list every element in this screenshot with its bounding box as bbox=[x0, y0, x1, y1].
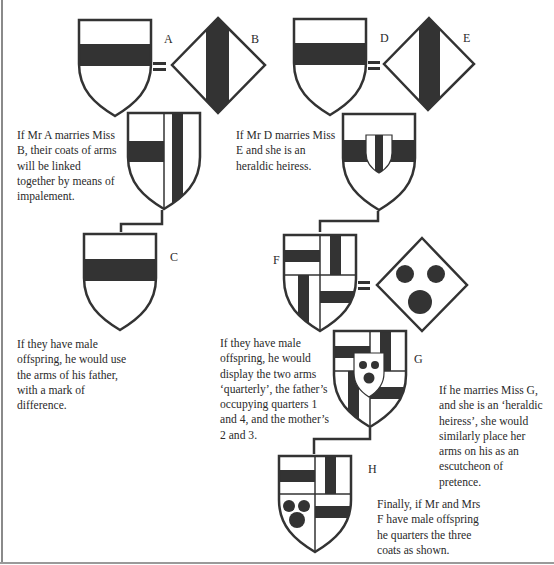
label-a: A bbox=[164, 32, 173, 47]
caption-impalement: If Mr A marries Miss B, their coats of a… bbox=[17, 128, 121, 204]
label-h: H bbox=[368, 462, 377, 477]
shield-impaled-ab bbox=[128, 113, 200, 209]
fess-band bbox=[79, 44, 151, 66]
roundel bbox=[408, 290, 432, 314]
shield-pretence-de bbox=[343, 114, 415, 210]
caption-pretence: If he marries Miss G, and she is an ‘her… bbox=[439, 383, 547, 490]
pale-band bbox=[206, 15, 229, 115]
equals-sign-fg bbox=[358, 281, 370, 290]
caption-quarterly: If they have male offspring, he would di… bbox=[220, 336, 334, 443]
descent-line-f bbox=[320, 211, 378, 232]
shield-h bbox=[279, 456, 351, 552]
label-e: E bbox=[463, 31, 470, 46]
lozenge-g bbox=[377, 238, 467, 331]
label-f: F bbox=[273, 253, 280, 268]
shield-a bbox=[79, 20, 151, 116]
shield-f bbox=[284, 235, 356, 335]
lozenge-e bbox=[380, 15, 480, 115]
shield-c bbox=[84, 234, 156, 330]
roundel bbox=[396, 265, 414, 283]
descent-line-c bbox=[121, 210, 162, 232]
label-d: D bbox=[380, 31, 389, 46]
caption-difference: If they have male offspring, he would us… bbox=[17, 337, 129, 413]
roundel bbox=[427, 265, 445, 283]
equals-sign-ab bbox=[153, 62, 166, 71]
lozenge-b bbox=[170, 15, 270, 115]
caption-heiress: If Mr D marries Miss E and she is an her… bbox=[236, 128, 336, 174]
label-c: C bbox=[170, 250, 178, 265]
label-g: G bbox=[414, 352, 423, 367]
shield-pretence-fg bbox=[334, 331, 406, 431]
caption-final: Finally, if Mr and Mrs F have male offsp… bbox=[377, 497, 481, 558]
equals-sign-de bbox=[368, 61, 380, 70]
label-b: B bbox=[251, 32, 259, 47]
shield-d bbox=[294, 19, 366, 115]
